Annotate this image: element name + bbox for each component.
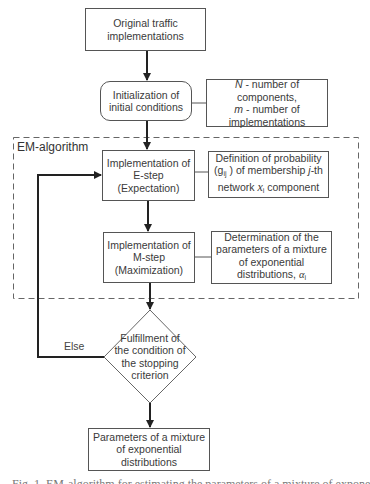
note-text: - number of: [243, 103, 300, 115]
else-label: Else: [64, 340, 84, 352]
node-text-line: the condition of: [114, 344, 185, 356]
note-initial-conditions: N - number of components, m - number of …: [206, 79, 328, 127]
decision-stopping-criterion: Fulfillment ofthe condition ofthe stoppi…: [104, 310, 196, 403]
node-text-line: implementations: [107, 30, 183, 42]
note-text: Definition of probability: [215, 152, 321, 164]
note-text: distributions,: [237, 268, 299, 280]
node-text-line: Implementation of: [107, 239, 190, 251]
note-m-step: Determination of the parameters of a mix…: [211, 231, 332, 284]
note-text: implementations: [229, 116, 305, 128]
node-initialization: Initialization ofinitial conditions: [100, 81, 192, 121]
var-m: m: [234, 103, 243, 115]
node-text-line: Fulfillment of: [120, 332, 180, 344]
note-text: -th: [311, 164, 323, 176]
node-text-line: distributions: [121, 456, 177, 468]
node-text-line: E-step: [133, 169, 163, 181]
figure-caption: Fig. 1. EM-algorithm for estimating the …: [12, 477, 368, 484]
node-original-traffic: Original trafficimplementations: [85, 8, 206, 51]
note-text: - number of: [242, 78, 299, 90]
node-text-line: Implementation of: [107, 157, 190, 169]
note-text: network: [218, 181, 258, 193]
note-text: of exponential: [239, 256, 304, 268]
node-text-line: Initialization of: [113, 89, 180, 101]
node-text-line: Original traffic: [113, 17, 178, 29]
note-text: Determination of the: [224, 231, 319, 243]
node-result-parameters: Parameters of a mixtureof exponentialdis…: [88, 428, 210, 471]
note-text: parameters of a mixture: [216, 243, 327, 255]
node-text-line: M-step: [133, 251, 165, 263]
node-text-line: the stopping: [121, 357, 178, 369]
arrow-else-loop: [38, 175, 104, 357]
note-text: ) of membership: [227, 164, 309, 176]
node-text-line: criterion: [131, 369, 168, 381]
note-text: component: [264, 181, 319, 193]
note-e-step: Definition of probability (gij ) of memb…: [208, 151, 329, 198]
em-algorithm-label: EM-algorithm: [17, 140, 88, 154]
node-text-line: (Expectation): [118, 182, 180, 194]
node-m-step: Implementation ofM-step(Maximization): [103, 232, 195, 283]
node-text-line: of exponential: [116, 443, 181, 455]
node-text-line: initial conditions: [109, 101, 183, 113]
node-text-line: Parameters of a mixture: [93, 431, 205, 443]
node-e-step: Implementation ofE-step(Expectation): [102, 150, 195, 201]
note-text: components,: [237, 91, 297, 103]
subscript: i: [304, 274, 306, 281]
node-text-line: (Maximization): [115, 264, 183, 276]
